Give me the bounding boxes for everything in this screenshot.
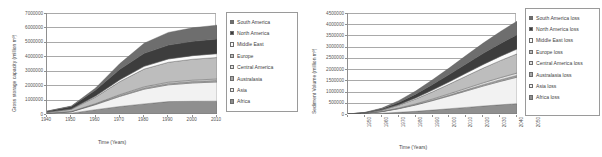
x-axis-tick-label: 1970	[110, 117, 128, 122]
legend-item[interactable]: Africa loss	[529, 92, 596, 103]
y-axis-tickmark	[345, 80, 347, 81]
y-axis-tickmark	[345, 69, 347, 70]
legend-item-label: South America	[237, 19, 270, 25]
legend-item-label: Asia loss	[536, 83, 556, 89]
y-axis-tick-label: 2000000	[0, 83, 43, 88]
y-axis-tickmark	[345, 92, 347, 93]
x-axis-tick-label: 1990	[158, 117, 176, 122]
legend-item-label: Asia	[237, 87, 247, 93]
y-axis-tick-label: 3000000	[0, 68, 43, 73]
legend-item-label: Middle East loss	[536, 37, 573, 43]
legend-item[interactable]: North America	[230, 27, 294, 38]
y-axis-tickmark	[44, 56, 46, 57]
y-axis-tickmark	[345, 13, 347, 14]
chart-panel-sediment-volume-loss: Sediment Volume (million m³) Time (Years…	[301, 0, 602, 157]
y-axis-tickmark	[345, 35, 347, 36]
x-axis-tick-label: 1950	[61, 117, 79, 122]
y-axis-tick-label: 1500000	[301, 78, 344, 83]
x-axis-tickmark	[143, 115, 144, 117]
x-axis-tick-label: 2010	[207, 117, 225, 122]
x-axis-tickmark	[119, 115, 120, 117]
legend-swatch-icon	[529, 27, 533, 31]
legend-swatch-icon	[529, 72, 533, 76]
x-axis-tickmark	[499, 115, 500, 117]
legend-item[interactable]: Australasia	[230, 73, 294, 84]
y-axis-tick-label: 6000000	[0, 25, 43, 30]
legend-item[interactable]: Europe loss	[529, 46, 596, 57]
legend-item[interactable]: Central America loss	[529, 58, 596, 69]
legend-item[interactable]: North America loss	[529, 23, 596, 34]
x-axis-tick-label: 1960	[384, 117, 389, 135]
y-axis-tickmark	[345, 24, 347, 25]
legend-item[interactable]: Asia	[230, 84, 294, 95]
legend-swatch-icon	[230, 20, 234, 24]
legend-swatch-icon	[230, 99, 234, 103]
legend-item[interactable]: Australasia loss	[529, 69, 596, 80]
x-axis-tick-label: 2020	[485, 117, 490, 135]
legend-swatch-icon	[230, 88, 234, 92]
x-axis-tick-label: 2050	[536, 117, 541, 135]
y-axis-tick-label: 4000000	[301, 22, 344, 27]
y-axis-tick-label: 500000	[301, 100, 344, 105]
legend-item[interactable]: Central America	[230, 62, 294, 73]
y-axis-tick-label: 2500000	[301, 55, 344, 60]
x-axis-tickmark	[216, 115, 217, 117]
y-axis-tick-label: 7000000	[0, 11, 43, 16]
legend-item-label: Australasia loss	[536, 72, 572, 78]
legend-swatch-icon	[529, 16, 533, 20]
x-axis-tick-label: 1950	[367, 117, 372, 135]
stacked-area-series-group	[47, 13, 217, 114]
legend-item-label: Middle East	[237, 41, 264, 47]
x-axis-tickmark	[465, 115, 466, 117]
y-axis-tick-label: 1000000	[301, 89, 344, 94]
legend-item[interactable]: Middle East loss	[529, 35, 596, 46]
legend-item-label: Australasia	[237, 76, 262, 82]
figure-two-stacked-area-charts: Gross storage capacity (million m³) Time…	[0, 0, 602, 157]
y-axis-tick-label: 3000000	[301, 44, 344, 49]
legend-swatch-icon	[230, 31, 234, 35]
legend-item[interactable]: Europe	[230, 50, 294, 61]
x-axis-tickmark	[192, 115, 193, 117]
y-axis-tick-label: 0	[301, 112, 344, 117]
x-axis-tickmark	[347, 115, 348, 117]
x-axis-tickmark	[167, 115, 168, 117]
x-axis-tick-label: 2030	[502, 117, 507, 135]
x-axis-tickmark	[398, 115, 399, 117]
legend-swatch-icon	[230, 54, 234, 58]
x-axis-tickmark	[516, 115, 517, 117]
legend-item[interactable]: Asia loss	[529, 80, 596, 91]
x-axis-tickmark	[70, 115, 71, 117]
y-axis-tick-label: 1000000	[0, 97, 43, 102]
x-axis-tick-label: 2000	[183, 117, 201, 122]
legend-item[interactable]: Africa	[230, 96, 294, 107]
legend-item[interactable]: South America	[230, 16, 294, 27]
legend-item-label: North America loss	[536, 26, 579, 32]
y-axis-tickmark	[345, 103, 347, 104]
x-axis-tickmark	[482, 115, 483, 117]
x-axis-tickmark	[95, 115, 96, 117]
plot-area	[347, 13, 516, 114]
legend-item-label: Europe loss	[536, 49, 563, 55]
chart-legend: South America lossNorth America lossMidd…	[525, 8, 600, 116]
legend-item[interactable]: Middle East	[230, 39, 294, 50]
x-axis-tickmark	[415, 115, 416, 117]
stacked-area-series-group	[348, 13, 517, 114]
legend-item[interactable]: South America loss	[529, 12, 596, 23]
x-axis-title: Time (Years)	[399, 144, 427, 150]
x-axis-tickmark	[364, 115, 365, 117]
y-axis-tickmark	[44, 42, 46, 43]
x-axis-tick-label: 2000	[452, 117, 457, 135]
x-axis-tick-label: 1980	[418, 117, 423, 135]
x-axis-tick-label: 1940	[37, 117, 55, 122]
y-axis-tickmark	[44, 27, 46, 28]
y-axis-tickmark	[44, 71, 46, 72]
legend-swatch-icon	[230, 65, 234, 69]
legend-item-label: Central America	[237, 64, 273, 70]
x-axis-tick-label: 1990	[435, 117, 440, 135]
x-axis-tick-label: 2010	[468, 117, 473, 135]
chart-panel-gross-storage-capacity: Gross storage capacity (million m³) Time…	[0, 0, 301, 157]
x-axis-tick-label: 1970	[401, 117, 406, 135]
y-axis-tickmark	[44, 85, 46, 86]
y-axis-tick-label: 2000000	[301, 67, 344, 72]
legend-item-label: South America loss	[536, 15, 580, 21]
